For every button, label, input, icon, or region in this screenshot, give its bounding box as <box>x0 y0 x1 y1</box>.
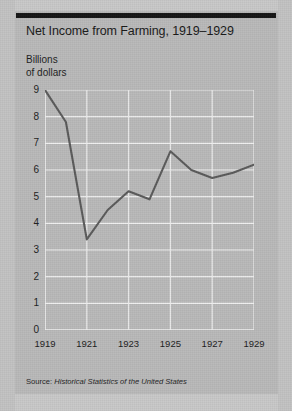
x-tick-label-1925: 1925 <box>150 338 190 349</box>
source-prefix: Source: <box>26 377 54 386</box>
x-tick-label-1927: 1927 <box>192 338 232 349</box>
data-line-net-income <box>45 90 254 239</box>
page-margin-left <box>0 0 15 411</box>
y-tick-label-6: 6 <box>23 164 39 175</box>
x-tick-label-1929: 1929 <box>234 338 274 349</box>
y-tick-label-7: 7 <box>23 137 39 148</box>
figure-page: Net Income from Farming, 1919–1929 Billi… <box>0 0 292 411</box>
source-publication-title: Historical Statistics of the United Stat… <box>54 377 187 386</box>
x-tick-label-1919: 1919 <box>25 338 65 349</box>
y-tick-label-2: 2 <box>23 271 39 282</box>
chart-title: Net Income from Farming, 1919–1929 <box>26 24 276 38</box>
y-tick-label-3: 3 <box>23 244 39 255</box>
y-tick-label-4: 4 <box>23 217 39 228</box>
plot-area <box>45 90 254 330</box>
y-axis-unit-label: Billions of dollars <box>26 54 67 79</box>
y-tick-label-5: 5 <box>23 191 39 202</box>
page-margin-bottom <box>0 394 292 411</box>
x-tick-label-1921: 1921 <box>67 338 107 349</box>
page-margin-right <box>278 0 292 411</box>
horizontal-gridlines <box>45 90 254 330</box>
page-margin-top <box>0 0 292 11</box>
source-note: Source: Historical Statistics of the Uni… <box>26 377 187 386</box>
y-axis-unit-line-2: of dollars <box>26 67 67 80</box>
y-tick-label-9: 9 <box>23 84 39 95</box>
y-tick-label-1: 1 <box>23 297 39 308</box>
title-rule <box>16 13 276 18</box>
vertical-gridlines <box>45 90 254 330</box>
y-axis-unit-line-1: Billions <box>26 54 67 67</box>
x-tick-label-1923: 1923 <box>109 338 149 349</box>
y-tick-label-8: 8 <box>23 111 39 122</box>
y-tick-label-0: 0 <box>23 324 39 335</box>
line-chart-svg <box>45 90 254 330</box>
